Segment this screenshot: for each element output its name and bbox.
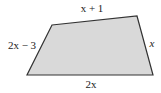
label-top-side: x + 1: [81, 2, 104, 14]
label-left-side: 2x − 3: [8, 39, 37, 51]
label-right-side: x: [149, 37, 155, 49]
quadrilateral-diagram: x + 1 2x − 3 x 2x: [0, 0, 161, 93]
quadrilateral-shape: [27, 16, 153, 75]
label-bottom-side: 2x: [86, 78, 98, 90]
